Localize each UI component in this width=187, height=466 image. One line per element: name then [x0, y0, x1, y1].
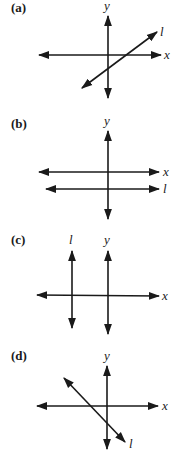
line-l — [64, 378, 125, 442]
y-axis-label: y — [102, 0, 110, 13]
panel-d: (d) y x l — [11, 348, 168, 451]
panel-b-label: (b) — [11, 116, 27, 131]
line-l-label: l — [69, 232, 73, 247]
y-axis-label: y — [102, 348, 110, 363]
x-axis-label: x — [163, 47, 170, 62]
panel-a: (a) y x l — [11, 0, 170, 98]
y-axis-label: y — [102, 113, 110, 128]
line-l-label: l — [163, 181, 167, 196]
panel-d-label: (d) — [11, 348, 27, 363]
line-diagrams-figure: (a) y x l (b) y x l (c) l y x (d) y x l — [0, 0, 187, 466]
panel-c: (c) l y x — [11, 232, 168, 334]
x-axis-label: x — [161, 398, 168, 413]
panel-a-label: (a) — [11, 0, 26, 15]
panel-b: (b) y x l — [11, 113, 169, 219]
line-l-label: l — [160, 24, 164, 39]
line-l — [82, 32, 157, 88]
x-axis-label: x — [162, 164, 169, 179]
x-axis-label: x — [161, 288, 168, 303]
line-l-label: l — [129, 436, 133, 451]
x-axis — [37, 295, 159, 296]
panel-c-label: (c) — [11, 232, 25, 247]
y-axis-label: y — [102, 232, 110, 247]
